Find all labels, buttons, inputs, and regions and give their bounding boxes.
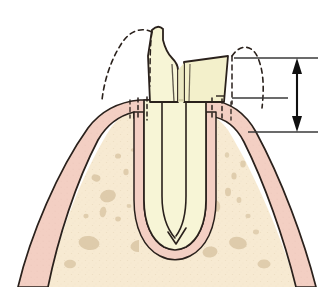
crown-fragment-right-shape — [184, 56, 228, 102]
root-body — [144, 100, 206, 250]
tooth-crown-fragment-right — [184, 56, 228, 102]
dental-cross-section-illustration — [0, 0, 332, 287]
illustration-canvas — [0, 0, 332, 287]
tooth-root — [144, 78, 206, 250]
